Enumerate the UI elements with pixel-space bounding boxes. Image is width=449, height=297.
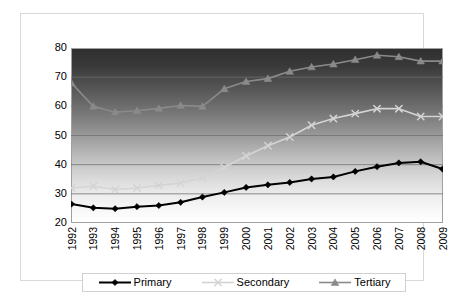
data-point-marker [199, 194, 205, 200]
data-point-marker [221, 164, 227, 170]
chart-frame: 20304050607080 1992199319941995199619971… [20, 13, 424, 281]
data-point-marker [221, 189, 227, 195]
x-tick-label: 1994 [109, 227, 121, 250]
data-point-marker [243, 153, 249, 159]
x-tick-label: 2003 [306, 227, 318, 250]
x-tick-label: 2005 [349, 227, 361, 250]
series-secondary [71, 105, 443, 192]
legend-entry-primary[interactable]: Primary [98, 277, 172, 288]
legend-entry-tertiary[interactable]: Tertiary [318, 277, 390, 288]
plot-area [71, 48, 443, 223]
series-line [72, 162, 443, 209]
data-point-marker [90, 205, 96, 211]
legend-label: Primary [134, 277, 172, 288]
data-point-marker [178, 199, 184, 205]
legend-swatch-primary-icon [98, 277, 132, 288]
data-point-marker [156, 202, 162, 208]
y-tick-label: 80 [39, 42, 67, 53]
x-tick-label: 2004 [327, 227, 339, 250]
data-point-marker [352, 168, 358, 174]
legend-swatch-tertiary-icon [318, 277, 352, 288]
x-tick-label: 1992 [66, 227, 78, 250]
data-point-marker [243, 184, 249, 190]
y-tick-label: 60 [39, 100, 67, 111]
x-tick-label: 1998 [196, 227, 208, 250]
y-tick-label: 50 [39, 130, 67, 141]
y-tick-label: 20 [39, 217, 67, 228]
data-point-marker [265, 182, 271, 188]
data-point-marker [308, 176, 314, 182]
y-axis: 20304050607080 [35, 48, 67, 223]
x-tick-label: 2008 [415, 227, 427, 250]
data-point-marker [265, 143, 271, 149]
data-point-marker [287, 179, 293, 185]
data-point-marker [71, 201, 75, 207]
x-tick-label: 1993 [87, 227, 99, 250]
series-primary [71, 159, 443, 212]
y-tick-label: 40 [39, 159, 67, 170]
data-point-marker [111, 279, 117, 285]
series-line [72, 55, 443, 112]
data-point-marker [330, 174, 336, 180]
y-tick-label: 70 [39, 71, 67, 82]
x-tick-label: 1995 [131, 227, 143, 250]
chart-legend: PrimarySecondaryTertiary [82, 273, 406, 292]
legend-entry-secondary[interactable]: Secondary [201, 277, 290, 288]
legend-label: Secondary [237, 277, 290, 288]
data-point-marker [71, 79, 75, 86]
data-point-marker [418, 159, 424, 165]
x-tick-label: 2002 [284, 227, 296, 250]
y-tick-label: 30 [39, 188, 67, 199]
data-point-marker [439, 166, 443, 172]
legend-swatch-secondary-icon [201, 277, 235, 288]
x-tick-label: 2001 [262, 227, 274, 250]
legend-label: Tertiary [354, 277, 390, 288]
data-point-marker [112, 206, 118, 212]
plot-series-layer [71, 48, 443, 223]
x-tick-label: 2009 [437, 227, 449, 250]
x-axis: 1992199319941995199619971998199920002001… [71, 227, 443, 269]
series-tertiary [71, 52, 443, 115]
x-tick-label: 1999 [218, 227, 230, 250]
x-tick-label: 1997 [175, 227, 187, 250]
data-point-marker [287, 134, 293, 140]
x-tick-label: 2006 [371, 227, 383, 250]
series-line [72, 109, 443, 190]
x-tick-label: 2000 [240, 227, 252, 250]
data-point-marker [134, 204, 140, 210]
x-tick-label: 2007 [393, 227, 405, 250]
x-tick-label: 1996 [153, 227, 165, 250]
